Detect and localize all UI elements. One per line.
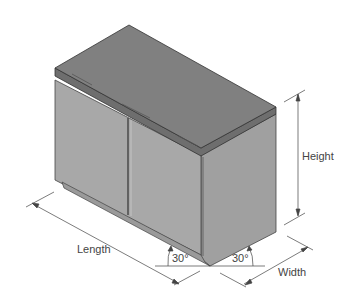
angle-right-label: 30° <box>232 252 249 264</box>
length-label: Length <box>77 243 111 255</box>
cabinet-diagram: Height Length Width 30° 30° <box>0 0 359 306</box>
width-label: Width <box>278 266 306 278</box>
angle-left-label: 30° <box>172 252 189 264</box>
height-label: Height <box>302 150 334 162</box>
